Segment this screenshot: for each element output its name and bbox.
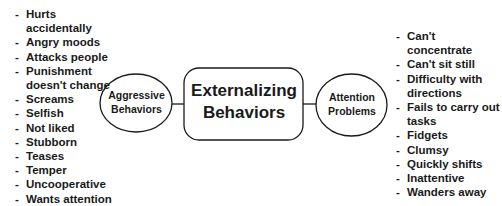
list-item: -Quickly shifts [396,157,502,171]
list-item: -Inattentive [396,171,502,185]
list-item: -Wants attention [15,192,125,206]
list-item: -Difficulty with directions [396,72,502,100]
list-item: -Fidgets [396,128,502,142]
externalizing-behaviors-title: Externalizing Behaviors [184,80,304,124]
attention-problems-label: Attention Problems [316,90,388,118]
list-item: -Can't concentrate [396,29,502,57]
list-item: -Hurts accidentally [15,7,125,35]
list-item: -Angry moods [15,35,125,49]
list-item: -Can't sit still [396,57,502,71]
list-item: -Teases [15,149,125,163]
attention-problems-list: -Can't concentrate -Can't sit still -Dif… [396,29,502,199]
list-item: -Temper [15,163,125,177]
list-item: -Wanders away [396,185,502,199]
list-item: -Attacks people [15,50,125,64]
list-item: -Uncooperative [15,177,125,191]
aggressive-behaviors-label: Aggressive Behaviors [100,88,173,116]
list-item: -Fails to carry out tasks [396,100,502,128]
list-item: -Not liked [15,121,125,135]
list-item: -Clumsy [396,143,502,157]
list-item: -Stubborn [15,135,125,149]
